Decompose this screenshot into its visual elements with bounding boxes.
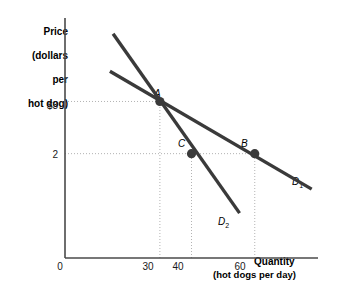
data-point-A <box>155 97 164 106</box>
demand-curve-D2 <box>113 34 240 213</box>
guide-lines <box>65 101 255 258</box>
demand-curve-figure: Price (dollars per hot dog) Quantity (ho… <box>0 0 349 293</box>
data-point-B <box>250 149 259 158</box>
data-point-C <box>187 149 196 158</box>
demand-curves <box>110 34 312 213</box>
plot-area <box>0 0 349 293</box>
